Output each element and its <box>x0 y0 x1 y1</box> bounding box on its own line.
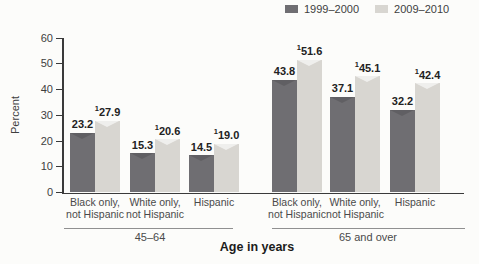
category-label-line: Hispanic <box>365 197 465 209</box>
bar-value-label: 151.6 <box>285 45 335 57</box>
bar-top-notch <box>70 133 94 139</box>
y-tick-label: 40 <box>26 83 53 95</box>
grouped-bar-chart: 1999–20002009–2010 Percent Age in years … <box>0 0 479 264</box>
y-tick <box>56 89 62 90</box>
y-tick <box>56 141 62 142</box>
y-tick <box>56 38 62 39</box>
bar-1999–2000 <box>70 133 95 193</box>
bar-top-notch <box>355 76 379 82</box>
plot-area: 010203040506023.2127.9Black only,not His… <box>0 0 479 264</box>
bar-1999–2000 <box>130 153 155 192</box>
category-label: Hispanic <box>365 197 465 209</box>
group-bracket <box>272 228 465 229</box>
bar-top-notch <box>130 153 154 159</box>
group-label: 65 and over <box>308 231 428 243</box>
y-tick-label: 10 <box>26 160 53 172</box>
footnote-marker: 1 <box>297 43 301 52</box>
bar-2009–2010 <box>415 83 440 192</box>
footnote-marker: 1 <box>214 127 218 136</box>
bar-top-notch <box>189 155 213 161</box>
bar-1999–2000 <box>189 155 214 192</box>
category-label-line: not Hispanic <box>105 209 205 221</box>
bar-top-notch <box>95 121 119 127</box>
bar-2009–2010 <box>297 60 322 193</box>
bar-2009–2010 <box>214 144 239 193</box>
bar-2009–2010 <box>95 121 120 193</box>
y-tick-label: 30 <box>26 109 53 121</box>
group-bracket <box>64 228 233 229</box>
bar-value-label: 120.6 <box>143 125 193 137</box>
bar-top-notch <box>155 139 179 145</box>
bar-top-notch <box>330 97 354 103</box>
y-tick <box>56 63 62 64</box>
bar-top-notch <box>390 110 414 116</box>
y-tick-label: 20 <box>26 135 53 147</box>
bar-1999–2000 <box>390 110 415 193</box>
footnote-marker: 1 <box>95 105 99 114</box>
bar-1999–2000 <box>330 97 355 193</box>
y-tick-label: 50 <box>26 57 53 69</box>
y-tick <box>56 166 62 167</box>
bar-top-notch <box>297 60 321 66</box>
y-axis-line <box>62 38 64 193</box>
bar-value-label: 119.0 <box>202 129 252 141</box>
footnote-marker: 1 <box>415 67 419 76</box>
x-axis-line <box>62 193 464 195</box>
group-label: 45–64 <box>90 231 210 243</box>
y-tick <box>56 192 62 193</box>
category-label-line: not Hispanic <box>305 209 405 221</box>
bar-top-notch <box>214 144 238 150</box>
bar-value-label: 127.9 <box>83 106 133 118</box>
footnote-marker: 1 <box>355 60 359 69</box>
footnote-marker: 1 <box>155 123 159 132</box>
bar-2009–2010 <box>355 76 380 192</box>
bar-value-label: 142.4 <box>403 69 453 81</box>
bar-1999–2000 <box>272 80 297 193</box>
bar-top-notch <box>272 80 296 86</box>
bar-top-notch <box>415 83 439 89</box>
bar-value-label: 145.1 <box>343 62 393 74</box>
y-tick <box>56 115 62 116</box>
y-tick-label: 60 <box>26 32 53 44</box>
